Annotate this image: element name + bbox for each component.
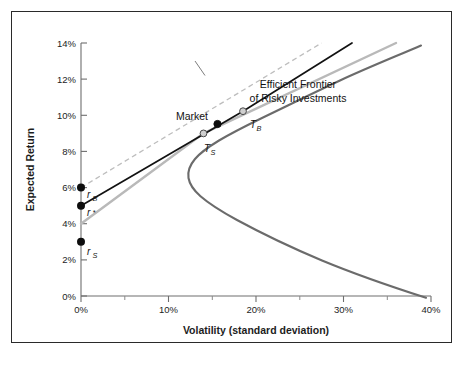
point-rB: [77, 184, 85, 192]
point-TS: [200, 130, 207, 137]
x-tick-label: 30%: [334, 304, 354, 315]
y-tick-label: 14%: [57, 38, 77, 49]
x-tick-label: 40%: [421, 304, 441, 315]
x-tick-label: 20%: [246, 304, 266, 315]
y-tick-label: 0%: [62, 291, 76, 302]
frontier-annotation-leader-line: [195, 61, 205, 76]
annotation-market: Market: [176, 110, 208, 122]
point-r-star: [77, 202, 85, 210]
annotation-efficient-frontier-line2: of Risky Investments: [250, 92, 347, 104]
figure-frame: 14% 12% 10% 8% 6% 4% 2% 0%: [11, 11, 452, 343]
label-TS-subscript: S: [211, 148, 216, 157]
figure-root: 14% 12% 10% 8% 6% 4% 2% 0%: [0, 0, 473, 369]
y-tick-label: 12%: [57, 74, 77, 85]
x-tick-label: 10%: [159, 304, 179, 315]
y-tick-label: 2%: [62, 254, 76, 265]
label-TB-group: T B: [250, 119, 262, 133]
point-TB: [240, 108, 247, 115]
annotation-efficient-frontier: Efficient Frontier of Risky Investments: [250, 78, 347, 104]
label-TB-subscript: B: [257, 124, 262, 133]
label-r-star-group: r *: [87, 207, 97, 218]
y-tick-label: 6%: [62, 182, 76, 193]
y-axis-title: Expected Return: [24, 128, 36, 211]
chart-canvas: 14% 12% 10% 8% 6% 4% 2% 0%: [12, 12, 451, 342]
y-axis-tick-labels: 14% 12% 10% 8% 6% 4% 2% 0%: [57, 38, 77, 302]
y-tick-label: 10%: [57, 110, 77, 121]
x-axis-ticks: [81, 296, 431, 302]
point-market: [214, 120, 221, 127]
label-TS-group: T S: [204, 143, 216, 157]
saving-capital-market-line: [81, 43, 396, 224]
label-rB: r: [87, 189, 91, 200]
y-tick-label: 4%: [62, 218, 76, 229]
y-tick-label: 8%: [62, 146, 76, 157]
point-rS: [77, 238, 85, 246]
label-rS-subscript: S: [93, 251, 98, 260]
y-axis-ticks: [81, 43, 87, 296]
x-tick-label: 0%: [74, 304, 88, 315]
label-rS-group: r S: [87, 246, 98, 260]
label-rB-subscript: B: [93, 194, 98, 203]
x-axis-title: Volatility (standard deviation): [183, 324, 329, 336]
annotation-efficient-frontier-line1: Efficient Frontier: [260, 78, 337, 90]
label-rS: r: [87, 246, 91, 257]
x-axis-tick-labels: 0% 10% 20% 30% 40%: [74, 304, 441, 315]
